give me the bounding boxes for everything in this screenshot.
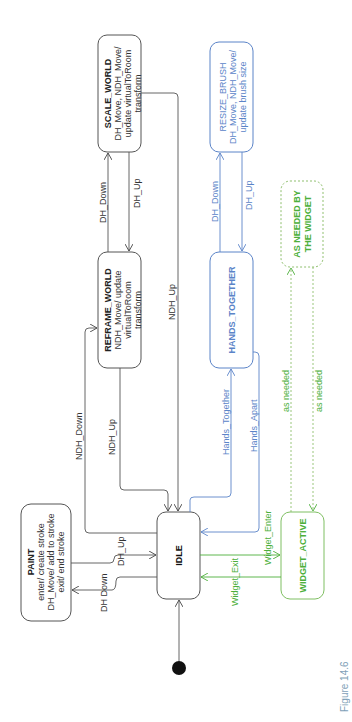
scale-world-title: SCALE_WORLD [103,58,113,128]
svg-text:NDH_Up: NDH_Up [167,284,177,320]
state-reframe-world: REFRAME_WORLD NDH_Move/ update virtualTo… [98,252,143,368]
svg-text:HANDS_TOGETHER: HANDS_TOGETHER [227,266,237,353]
svg-text:DH_Move, NDH_Move/: DH_Move, NDH_Move/ [113,46,123,141]
state-paint: PAINT enter/ create stroke DH_Move/ add … [21,504,71,621]
initial-state-dot [172,661,186,675]
svg-text:IDLE: IDLE [174,545,184,566]
svg-text:Widget_Enter: Widget_Enter [263,510,273,565]
svg-text:as needed: as needed [281,370,291,412]
svg-text:REFRAME_WORLD: REFRAME_WORLD [103,268,113,352]
svg-text:update virtualToRoom: update virtualToRoom [123,50,133,138]
svg-text:DH_Down: DH_Down [98,182,108,223]
svg-text:WIDGET_ACTIVE: WIDGET_ACTIVE [298,518,308,592]
svg-text:NDH_Down: NDH_Down [74,412,84,460]
svg-text:transform: transform [133,291,143,329]
svg-text:DH_Move, NDH_Move/: DH_Move, NDH_Move/ [228,49,238,144]
svg-text:THE WIDGET: THE WIDGET [303,195,313,252]
state-resize-brush: RESIZE_BRUSH DH_Move, NDH_Move/ update b… [210,42,253,152]
svg-text:update brush size: update brush size [238,61,248,132]
state-hands-together: HANDS_TOGETHER [210,252,253,368]
svg-text:DH_Move/ add to stroke: DH_Move/ add to stroke [46,513,56,610]
state-diagram: SCALE_WORLD DH_Move, NDH_Move/ update vi… [0,0,352,722]
svg-text:NDH_Up: NDH_Up [107,419,117,455]
svg-text:DH Down: DH Down [99,573,109,612]
edge-reframe-to-idle [120,368,168,511]
state-widget-active: WIDGET_ACTIVE [281,512,324,599]
svg-text:DH_Up: DH_Up [116,536,126,566]
svg-text:PAINT: PAINT [26,548,36,575]
state-as-needed-by-widget: AS NEEDED BY THE WIDGET [281,181,323,267]
figure-caption: Figure 14.6 [339,661,350,712]
state-scale-world: SCALE_WORLD DH_Move, NDH_Move/ update vi… [98,35,143,152]
svg-text:DH_Down: DH_Down [210,181,220,222]
svg-text:DH_Up: DH_Up [244,180,254,210]
svg-text:Hands_Together: Hands_Together [221,389,231,455]
svg-text:transform: transform [133,74,143,112]
svg-text:RESIZE_BRUSH: RESIZE_BRUSH [218,62,228,131]
svg-text:virtualToRoom: virtualToRoom [123,281,133,339]
svg-text:enter/ create stroke: enter/ create stroke [36,523,46,601]
svg-text:as needed: as needed [314,370,324,412]
svg-text:AS NEEDED BY: AS NEEDED BY [292,190,302,258]
edge-idle-to-paint [72,577,157,590]
svg-text:Widget_Exit: Widget_Exit [230,557,240,606]
svg-text:exit/ end stroke: exit/ end stroke [56,531,66,592]
svg-text:NDH_Move/ update: NDH_Move/ update [113,270,123,349]
svg-text:Hands_Apart: Hands_Apart [249,399,259,452]
edge-paint-to-idle [71,555,156,563]
state-idle: IDLE [157,512,200,599]
svg-text:DH_Up: DH_Up [132,178,142,208]
